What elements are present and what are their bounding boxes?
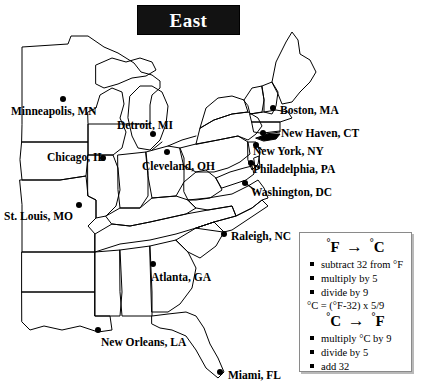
legend-step-text: divide by 5 (321, 347, 368, 358)
legend-heading-from: F (331, 239, 340, 255)
city-label: Cleveland, OH (142, 161, 215, 173)
city-dot (76, 202, 82, 208)
list-item: multiply by 5 (310, 272, 405, 286)
city-dot (150, 261, 156, 267)
city-label: New York, NY (253, 146, 324, 158)
city-dot (270, 105, 276, 111)
city-label: Raleigh, NC (231, 231, 291, 243)
city-label: Washington, DC (251, 187, 332, 199)
legend-heading-to: C (374, 239, 385, 255)
legend-formula: °C = (°F-32) x 5/9 (306, 300, 405, 311)
city-label: Atlanta, GA (151, 272, 211, 284)
list-item: subtract 32 from °F (310, 258, 405, 272)
legend-step-text: add 32 (321, 361, 349, 372)
list-item: add 32 (310, 360, 405, 374)
city-dot (217, 369, 223, 375)
square-bullet-icon (310, 350, 314, 354)
legend-heading-from: C (330, 313, 341, 329)
list-item: multiply °C by 9 (310, 332, 405, 346)
legend-heading-f-to-c: °F → °C (306, 238, 405, 256)
legend-heading-c-to-f: °C → °F (306, 312, 405, 330)
square-bullet-icon (310, 290, 314, 294)
square-bullet-icon (310, 262, 314, 266)
city-dot (164, 149, 170, 155)
list-item: divide by 9 (310, 286, 405, 300)
city-dot (221, 231, 227, 237)
arrow-right-icon: → (343, 237, 366, 256)
map-figure: East Minneapolis, MNDetroit, MIChicago, … (0, 0, 424, 389)
list-item: divide by 5 (310, 346, 405, 360)
city-dot (60, 96, 66, 102)
legend-heading-to: F (376, 313, 385, 329)
square-bullet-icon (310, 276, 314, 280)
city-dot (95, 327, 101, 333)
city-label: St. Louis, MO (4, 211, 73, 223)
legend-steps-f-to-c: subtract 32 from °F multiply by 5 divide… (306, 258, 405, 300)
city-label: Chicago, IL (47, 152, 105, 164)
city-label: New Orleans, LA (101, 337, 186, 349)
city-label: Philadelphia, PA (253, 164, 335, 176)
arrow-right-icon: → (345, 311, 368, 330)
city-dot (260, 130, 266, 136)
legend-step-text: multiply °C by 9 (321, 333, 391, 344)
square-bullet-icon (310, 364, 314, 368)
legend-steps-c-to-f: multiply °C by 9 divide by 5 add 32 (306, 332, 405, 374)
legend-step-text: subtract 32 from °F (321, 259, 403, 270)
city-label: Minneapolis, MN (11, 106, 97, 118)
city-label: Boston, MA (280, 105, 339, 117)
city-dot (150, 131, 156, 137)
city-dot (242, 180, 248, 186)
legend-step-text: divide by 9 (321, 287, 368, 298)
city-label: Miami, FL (228, 370, 281, 382)
city-label: Detroit, MI (117, 120, 173, 132)
square-bullet-icon (310, 336, 314, 340)
city-label: New Haven, CT (281, 128, 359, 140)
legend-step-text: multiply by 5 (321, 273, 378, 284)
temperature-conversion-legend: °F → °C subtract 32 from °F multiply by … (299, 232, 412, 372)
